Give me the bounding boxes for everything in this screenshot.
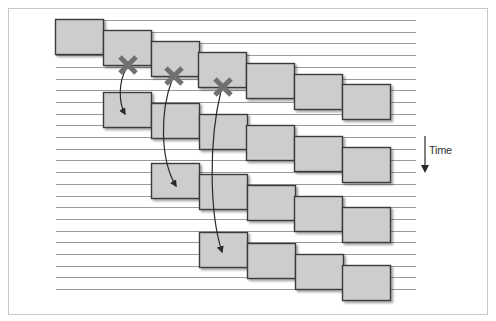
task-box <box>104 31 152 66</box>
task-box <box>296 255 344 290</box>
task-box <box>295 137 343 172</box>
task-box <box>152 104 200 139</box>
task-box <box>247 64 295 99</box>
task-box <box>343 85 391 120</box>
arrow-down-icon <box>421 165 429 173</box>
task-box <box>247 126 295 161</box>
task-box <box>200 115 248 150</box>
task-box <box>199 53 247 88</box>
task-box <box>295 75 343 110</box>
task-box <box>200 233 248 268</box>
time-axis-label: Time <box>429 144 452 156</box>
time-axis-arrow <box>421 136 429 173</box>
task-box <box>248 244 296 279</box>
task-box <box>343 148 391 183</box>
task-box <box>295 197 343 232</box>
task-box <box>343 266 391 301</box>
task-box <box>104 93 152 128</box>
task-box <box>248 186 296 221</box>
task-box <box>152 164 200 199</box>
task-box <box>200 175 248 210</box>
task-box <box>56 20 104 55</box>
task-box <box>343 208 391 243</box>
pipeline-diagram <box>0 0 496 321</box>
